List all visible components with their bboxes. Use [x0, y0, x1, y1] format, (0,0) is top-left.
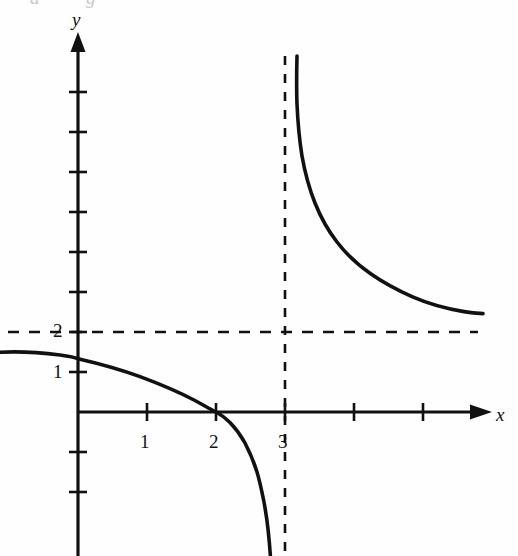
x-tick-label-1: 1 [140, 432, 150, 451]
x-axis-label: x [496, 405, 504, 424]
y-axis-label: y [72, 10, 80, 29]
y-axis-arrowhead [71, 32, 86, 52]
axes-group [71, 32, 493, 556]
x-tick-label-3: 3 [278, 432, 288, 451]
y-tick-label-2: 2 [53, 321, 63, 340]
graph-figure: a g [0, 0, 518, 556]
plot-canvas [0, 0, 518, 556]
x-axis-arrowhead [470, 405, 492, 420]
x-tick-label-2: 2 [209, 432, 219, 451]
y-tick-label-1: 1 [53, 362, 63, 381]
left-branch-curve [0, 352, 270, 556]
right-branch-curve [297, 56, 483, 314]
